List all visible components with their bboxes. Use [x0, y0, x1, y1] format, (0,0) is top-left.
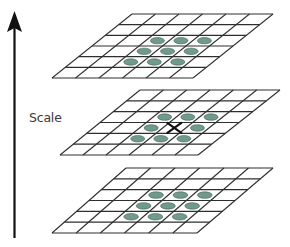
- neighbor-sample-marker: [150, 37, 164, 43]
- neighbor-sample-marker: [161, 48, 175, 54]
- neighbor-sample-marker: [148, 214, 163, 221]
- neighbor-sample-marker: [204, 114, 218, 121]
- neighbor-sample-marker: [124, 59, 138, 65]
- neighbor-sample-marker: [184, 48, 198, 54]
- neighbor-sample-marker: [171, 59, 185, 65]
- neighbor-sample-marker: [174, 37, 188, 43]
- neighbor-sample-marker: [136, 203, 151, 210]
- neighbor-sample-marker: [147, 59, 161, 65]
- neighbor-sample-marker: [197, 37, 211, 43]
- neighbor-sample-marker: [173, 192, 188, 199]
- grid-layer-current-scale: [60, 90, 280, 155]
- grid-layer-upper-scale: [52, 14, 273, 78]
- neighbor-sample-marker: [181, 114, 195, 121]
- neighbor-sample-marker: [137, 48, 151, 54]
- neighbor-sample-marker: [144, 125, 158, 132]
- neighbor-sample-marker: [190, 125, 204, 132]
- neighbor-sample-marker: [149, 192, 164, 199]
- scale-axis-arrow: [7, 11, 22, 238]
- neighbor-sample-marker: [154, 136, 168, 143]
- neighbor-sample-marker: [124, 214, 139, 221]
- grid-layer-lower-scale: [52, 168, 273, 233]
- scale-layers: [52, 14, 280, 233]
- neighbor-sample-marker: [158, 114, 172, 121]
- neighbor-sample-marker: [185, 203, 200, 210]
- neighbor-sample-marker: [161, 203, 176, 210]
- neighbor-sample-marker: [172, 214, 187, 221]
- scale-axis-label: Scale: [29, 110, 62, 125]
- neighbor-sample-marker: [177, 136, 191, 143]
- neighbor-sample-marker: [131, 136, 145, 143]
- neighbor-sample-marker: [197, 192, 212, 199]
